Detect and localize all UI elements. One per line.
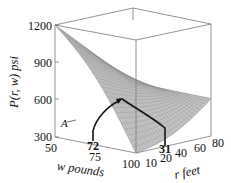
- r-tick-label: 40: [175, 146, 187, 160]
- r-annotation-label: 31: [159, 142, 171, 156]
- z-axis: 1200 900 600 300 P(r, w) psi: [7, 19, 59, 144]
- r-tick-label: 10: [145, 156, 157, 170]
- box-edge: [136, 24, 211, 40]
- w-annotation-label: 72: [87, 139, 99, 153]
- w-tick-label: 100: [122, 157, 140, 171]
- z-tick-label: 900: [34, 56, 52, 70]
- point-a-leader: [67, 120, 76, 122]
- surface-plot: 1200 900 600 300 P(r, w) psi 50 75 100 w…: [0, 0, 231, 183]
- r-tick-label: 80: [212, 136, 224, 150]
- w-tick-label: 50: [45, 141, 57, 155]
- r-axis-title: r feet: [173, 162, 202, 181]
- surface: [55, 25, 211, 153]
- z-tick-label: 600: [34, 93, 52, 107]
- z-tick-label: 1200: [28, 19, 52, 33]
- z-axis-title: P(r, w) psi: [7, 56, 21, 109]
- r-tick-label: 60: [194, 141, 206, 155]
- box-edge: [55, 8, 133, 25]
- box-edge: [133, 8, 211, 24]
- point-a-label: A: [60, 117, 68, 129]
